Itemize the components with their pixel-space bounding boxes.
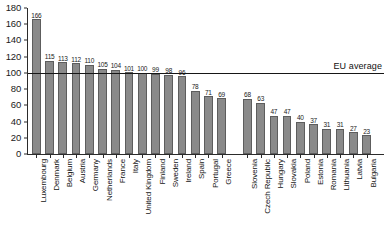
bar-value-label: 78 [192, 83, 199, 90]
x-axis-category-label: Denmark [53, 159, 61, 191]
x-axis-category-text: Slovenia [251, 159, 259, 189]
y-tick-label: 0 [16, 149, 21, 159]
bar-value-label: 105 [98, 61, 108, 68]
x-axis-category-text: Lithuania [343, 159, 351, 191]
bar[interactable] [98, 69, 107, 154]
plot-area: 1661151131121101051041011009998967871696… [28, 8, 384, 154]
bar[interactable] [243, 99, 252, 154]
x-tick-mark [353, 155, 354, 158]
bar-value-label: 68 [244, 91, 251, 98]
x-tick-mark [182, 155, 183, 158]
y-tick-label: 20 [11, 133, 21, 143]
x-tick-mark [247, 155, 248, 158]
x-axis-category-label: Poland [304, 159, 312, 183]
x-tick-mark [142, 155, 143, 158]
x-axis-labels: LuxembourgDenmarkBelgiumAustriaGermanyNe… [28, 159, 384, 235]
x-axis-category-text: Hungary [277, 159, 285, 189]
x-tick-mark [208, 155, 209, 158]
bar-value-label: 101 [124, 65, 134, 72]
bar-value-label: 113 [58, 55, 67, 62]
bar[interactable] [85, 65, 94, 154]
y-tick-label: 120 [6, 52, 21, 62]
bar[interactable] [32, 19, 41, 154]
x-axis-category-label: Slovakia [290, 159, 298, 188]
x-axis-category-label: Germany [92, 159, 100, 191]
bar[interactable] [138, 73, 147, 154]
eu-average-label: EU average [333, 61, 382, 71]
bar-value-label: 23 [363, 128, 370, 135]
x-axis-category-label: Luxembourg [40, 159, 48, 202]
bar[interactable] [151, 74, 160, 154]
bar[interactable] [111, 70, 120, 154]
bar-slot: 31 [336, 8, 345, 154]
x-axis-category-label: Czech Republic [264, 159, 272, 214]
x-axis-category-label: Finland [159, 159, 167, 185]
bar-value-label: 63 [257, 95, 264, 102]
x-axis-category-text: Austria [79, 159, 87, 183]
x-axis-category-label: Italy [132, 159, 140, 173]
x-axis-category-label: Portugal [212, 159, 220, 188]
x-axis-category-text: Bulgaria [370, 159, 378, 188]
bar-slot: 47 [270, 8, 279, 154]
bar[interactable] [256, 103, 265, 154]
bar[interactable] [349, 132, 358, 154]
bar-slot: 71 [204, 8, 213, 154]
bar-slot: 96 [178, 8, 187, 154]
x-axis-category-label: Ireland [185, 159, 193, 183]
x-tick-mark [89, 155, 90, 158]
bar-slot: 37 [309, 8, 318, 154]
x-axis-category-label: Greece [225, 159, 233, 185]
bar-value-label: 112 [71, 56, 80, 63]
x-axis-category-text: Finland [159, 159, 167, 185]
x-tick-mark [195, 155, 196, 158]
bar[interactable] [309, 124, 318, 154]
x-tick-mark [116, 155, 117, 158]
x-axis-category-text: Netherlands [106, 159, 114, 201]
bar[interactable] [72, 63, 81, 154]
bar[interactable] [204, 96, 213, 154]
bar-value-label: 37 [310, 117, 317, 124]
x-tick-mark [300, 155, 301, 158]
bar[interactable] [164, 75, 173, 154]
bar-value-label: 166 [31, 12, 41, 19]
x-tick-mark [50, 155, 51, 158]
bar-value-label: 40 [297, 114, 304, 121]
bar[interactable] [125, 72, 134, 154]
x-axis-category-text: Portugal [212, 159, 220, 188]
bar[interactable] [178, 76, 187, 154]
bar[interactable] [217, 98, 226, 154]
y-tick-label: 80 [11, 84, 21, 94]
x-axis-category-text: Denmark [53, 159, 61, 191]
bar[interactable] [322, 129, 331, 154]
bar[interactable] [270, 116, 279, 154]
bar[interactable] [362, 135, 371, 154]
bar-slot: 100 [138, 8, 147, 154]
x-axis-category-label: Netherlands [106, 159, 114, 201]
bar-slot: 115 [45, 8, 54, 154]
x-axis-category-label: Hungary [277, 159, 285, 189]
x-tick-mark [129, 155, 130, 158]
bar-slot: 104 [111, 8, 120, 154]
bar[interactable] [296, 122, 305, 154]
bar-value-label: 47 [284, 108, 291, 115]
bar[interactable] [191, 91, 200, 154]
bar[interactable] [58, 62, 67, 154]
bar[interactable] [336, 129, 345, 154]
x-tick-mark [155, 155, 156, 158]
x-axis-category-label: Lithuania [343, 159, 351, 191]
x-axis-category-text: Slovakia [290, 159, 298, 188]
bar-slot: 69 [217, 8, 226, 154]
x-axis-category-text: Spain [198, 159, 206, 179]
y-tick-label: 40 [11, 117, 21, 127]
eu-average-line [28, 73, 384, 74]
bar-value-label: 110 [85, 57, 94, 64]
y-tick-label: 60 [11, 101, 21, 111]
bar-slot: 31 [322, 8, 331, 154]
bar[interactable] [45, 61, 54, 154]
x-axis-category-text: Italy [132, 159, 140, 173]
x-axis-category-text: United Kingdom [145, 159, 153, 215]
bar[interactable] [283, 116, 292, 154]
bar-slot: 99 [151, 8, 160, 154]
x-tick-mark [222, 155, 223, 158]
x-tick-mark [63, 155, 64, 158]
